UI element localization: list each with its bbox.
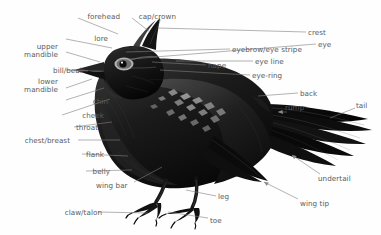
label-throat: throat bbox=[0, 124, 98, 132]
label-layer: foreheadcap/crowncrestloreeyeuppermandib… bbox=[0, 0, 381, 235]
label-belly: belly bbox=[0, 168, 110, 176]
label-chin: chin bbox=[0, 98, 108, 106]
label-rump: rump bbox=[285, 104, 304, 112]
label-cheek: cheek bbox=[0, 112, 104, 120]
label-tail: tail bbox=[356, 102, 367, 110]
label-undertail: undertail bbox=[318, 175, 351, 183]
label-chest-breast: chest/breast bbox=[0, 137, 70, 145]
label-eyebrow-eye-stripe: eyebrow/eye stripe bbox=[232, 46, 302, 54]
label-upper-mandible: uppermandible bbox=[0, 43, 58, 60]
label-nape: nape bbox=[208, 62, 226, 70]
label-back: back bbox=[300, 90, 317, 98]
label-lower-mandible: lowermandible bbox=[0, 78, 58, 95]
label-wing-tip: wing tip bbox=[300, 200, 329, 208]
label-eye: eye bbox=[318, 41, 331, 49]
label-bill-beak: bill/beak bbox=[0, 67, 84, 75]
label-toe: toe bbox=[210, 217, 222, 225]
label-crest: crest bbox=[308, 29, 326, 37]
label-wing-bar: wing bar bbox=[96, 182, 128, 190]
label-cap-crown: cap/crown bbox=[0, 13, 176, 21]
bird-anatomy-diagram: foreheadcap/crowncrestloreeyeuppermandib… bbox=[0, 0, 381, 235]
label-flank: flank bbox=[0, 151, 104, 159]
label-eye-line: eye line bbox=[255, 58, 284, 66]
label-eye-ring: eye-ring bbox=[252, 72, 282, 80]
label-leg: leg bbox=[218, 193, 229, 201]
label-claw-talon: claw/talon bbox=[0, 209, 102, 217]
